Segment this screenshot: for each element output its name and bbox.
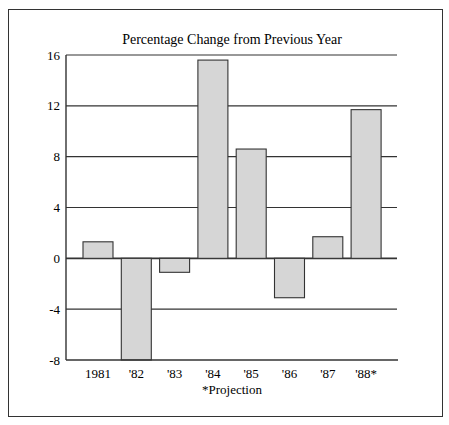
gridlines — [66, 55, 397, 309]
x-tick-label: '82 — [129, 366, 144, 381]
x-tick-label: '88* — [355, 366, 377, 381]
x-tick-label: '86 — [282, 366, 298, 381]
y-tick-label: 0 — [54, 251, 61, 266]
bar — [198, 60, 228, 258]
chart-title: Percentage Change from Previous Year — [122, 32, 342, 47]
y-tick-label: -4 — [49, 302, 60, 317]
x-tick-label: '84 — [205, 366, 221, 381]
x-axis-ticks: 1981'82'83'84'85'86'87'88* — [85, 366, 377, 381]
y-tick-label: -8 — [49, 353, 60, 368]
bars — [83, 60, 381, 360]
x-tick-label: 1981 — [85, 366, 111, 381]
y-tick-label: 8 — [54, 149, 61, 164]
y-tick-label: 12 — [47, 98, 60, 113]
bar — [160, 258, 190, 272]
y-tick-label: 16 — [47, 48, 61, 63]
y-axis-ticks: 1612840-4-8 — [47, 48, 61, 368]
bar — [275, 258, 305, 297]
projection-footnote: *Projection — [202, 382, 262, 397]
x-tick-label: '83 — [167, 366, 182, 381]
bar-chart: Percentage Change from Previous Year 161… — [0, 0, 449, 425]
x-tick-label: '87 — [320, 366, 336, 381]
x-tick-label: '85 — [244, 366, 259, 381]
bar — [83, 242, 113, 259]
bar — [313, 237, 343, 259]
bar — [236, 149, 266, 258]
bar — [351, 110, 381, 259]
y-tick-label: 4 — [54, 200, 61, 215]
bar — [121, 258, 151, 360]
